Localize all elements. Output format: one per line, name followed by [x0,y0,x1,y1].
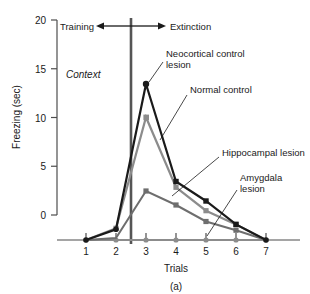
data-point [173,202,178,207]
data-point [143,81,149,87]
y-tick-label-10: 10 [35,113,47,124]
y-tick-label-15: 15 [35,64,47,75]
series-line-neocortical [86,84,266,240]
data-point [143,188,148,193]
data-point [203,208,208,213]
series-normal-control [86,115,266,240]
series-line-hippocampal [86,191,266,240]
phase-label-extinction: Extinction [170,21,211,32]
data-point [233,228,238,233]
x-axis-title: Trials [164,263,188,274]
y-tick-label-0: 0 [40,210,46,221]
data-point [173,179,178,184]
data-point [113,227,119,233]
x-tick-label-7: 7 [263,246,269,257]
data-point [233,237,238,242]
data-point [143,115,149,121]
callout-amygdala-line1: Amygdala [240,172,283,183]
y-tick-label-20: 20 [35,15,47,26]
series-hippocampal-lesion [86,188,266,240]
x-tick-label-5: 5 [203,246,209,257]
y-axis-title: Freezing (sec) [11,85,22,149]
phase-label-training: Training [60,21,94,32]
data-point [173,185,178,190]
callout-amygdala-line2: lesion [240,183,265,194]
data-point [263,237,269,243]
data-point [233,222,238,227]
x-tick-label-1: 1 [83,246,89,257]
callout-neocortical-line2: lesion [166,59,191,70]
x-tick-label-6: 6 [233,246,239,257]
data-point [203,237,208,242]
callout-normal-control: Normal control [190,84,252,95]
figure-container: 20 15 10 5 0 Freezing (sec) 1 2 3 4 5 6 … [0,0,310,294]
data-point [143,237,148,242]
data-point [173,237,178,242]
series-neocortical-control-lesion [83,81,269,243]
freezing-trials-line-chart: 20 15 10 5 0 Freezing (sec) 1 2 3 4 5 6 … [0,0,310,294]
callout-hippocampal-lesion: Hippocampal lesion [222,147,305,158]
y-tick-label-5: 5 [40,161,46,172]
data-point [83,237,89,243]
data-point [203,198,208,203]
x-tick-label-3: 3 [143,246,149,257]
x-tick-label-2: 2 [113,246,119,257]
context-label: Context [66,69,102,80]
y-axis-ticks [51,20,57,215]
figure-caption: (a) [170,281,182,292]
x-tick-label-4: 4 [173,246,179,257]
data-point [203,219,208,224]
callout-neocortical-line1: Neocortical control [166,48,245,59]
